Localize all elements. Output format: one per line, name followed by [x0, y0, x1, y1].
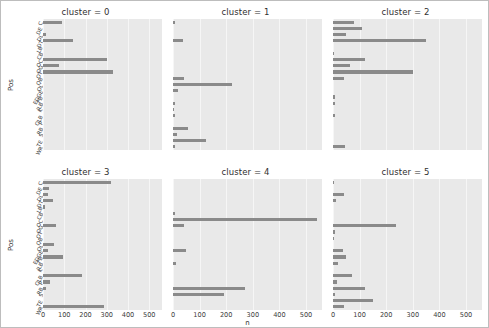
gridline-vertical: [173, 179, 174, 310]
bar: [173, 83, 232, 86]
figure-canvas: cluster = 0PosCDEDLDTLBCBOCOGOTQBOLEDGEF…: [0, 0, 489, 328]
bar: [333, 305, 344, 308]
gridline-vertical: [466, 19, 467, 150]
bar: [43, 33, 46, 36]
bar: [333, 274, 352, 277]
bar: [333, 193, 344, 196]
facet-body: [169, 179, 322, 310]
gridline-vertical: [253, 179, 254, 310]
bar: [333, 27, 362, 30]
bar: [43, 287, 46, 290]
x-tick-label: 500: [143, 311, 156, 319]
gridline-vertical: [466, 179, 467, 310]
bar: [43, 39, 73, 42]
bar: [173, 114, 175, 117]
bar: [43, 224, 56, 227]
bar: [333, 237, 334, 240]
plot-area: [173, 19, 322, 150]
facet-body: [329, 19, 482, 150]
bar: [173, 262, 176, 265]
plot-area: [173, 179, 322, 310]
facet-body: [329, 179, 482, 310]
bar: [333, 199, 336, 202]
gridline-vertical: [439, 19, 440, 150]
bar: [43, 181, 111, 184]
gridline-vertical: [128, 179, 129, 310]
x-tick-label: 500: [460, 311, 473, 319]
gridline-vertical: [360, 179, 361, 310]
bar: [333, 21, 354, 24]
facet-title: cluster = 0: [9, 7, 162, 19]
x-tick-label: 400: [122, 311, 135, 319]
x-tick-label: 400: [433, 311, 446, 319]
facet-grid: cluster = 0PosCDEDLDTLBCBOCOGOTQBOLEDGEF…: [9, 7, 482, 323]
x-tick-label: 400: [273, 311, 286, 319]
bar: [173, 77, 184, 80]
bar: [333, 230, 335, 233]
facet-title: cluster = 2: [329, 7, 482, 19]
bar: [43, 205, 45, 208]
facet-cluster-5: cluster = 50100200300400500n: [329, 167, 482, 323]
x-axis: 0100200300400500n: [333, 310, 482, 323]
bar: [333, 145, 345, 148]
gridline-vertical: [107, 19, 108, 150]
x-axis-title: n: [245, 319, 249, 327]
facet-cluster-3: cluster = 3PosCDEDLDTLBCBOCOGOTQBOLEDGEF…: [9, 167, 162, 323]
plot-area: [43, 19, 162, 150]
gridline-vertical: [86, 19, 87, 150]
gridline-vertical: [128, 19, 129, 150]
facet-body: [169, 19, 322, 150]
bar: [333, 255, 346, 258]
bar: [43, 274, 82, 277]
bar: [333, 39, 426, 42]
x-tick-label: 500: [300, 311, 313, 319]
x-tick-label: 100: [353, 311, 366, 319]
gridline-vertical: [149, 179, 150, 310]
x-tick-label: 0: [41, 311, 45, 319]
y-tick-labels: PosCDEDLDTLBCBOCOGOTQBOLEDGEFBILBKOLBPRB…: [9, 179, 43, 310]
gridline-vertical: [279, 179, 280, 310]
plot-area: [43, 179, 162, 310]
facet-cluster-2: cluster = 20100200300400500n: [329, 7, 482, 163]
bar: [173, 108, 174, 111]
gridline-vertical: [306, 19, 307, 150]
bar: [333, 293, 335, 296]
bar: [43, 187, 49, 190]
bar: [333, 249, 343, 252]
bar: [173, 212, 175, 215]
facet-cluster-1: cluster = 10100200300400500n: [169, 7, 322, 163]
bar: [333, 299, 373, 302]
bar: [173, 145, 175, 148]
plot-area: [333, 179, 482, 310]
facet-cluster-4: cluster = 40100200300400500n: [169, 167, 322, 323]
x-tick-label: 0: [331, 311, 335, 319]
x-tick-label: 300: [100, 311, 113, 319]
gridline-vertical: [386, 179, 387, 310]
bar: [173, 133, 177, 136]
bar: [333, 224, 396, 227]
gridline-vertical: [439, 179, 440, 310]
facet-title: cluster = 5: [329, 167, 482, 179]
bar: [333, 64, 350, 67]
x-tick-label: 100: [58, 311, 71, 319]
bar: [333, 262, 338, 265]
bar: [333, 181, 334, 184]
bar: [43, 58, 107, 61]
bar: [173, 293, 224, 296]
bar: [333, 70, 413, 73]
gridline-vertical: [149, 19, 150, 150]
y-tick-labels: PosCDEDLDTLBCBOCOGOTQBOLEDGEFBILBKOLBPRB…: [9, 19, 43, 150]
bar: [43, 64, 59, 67]
facet-title: cluster = 4: [169, 167, 322, 179]
gridline-vertical: [306, 179, 307, 310]
y-axis-title: Pos: [7, 239, 15, 251]
x-tick-label: 300: [407, 311, 420, 319]
gridline-vertical: [64, 179, 65, 310]
gridline-vertical: [107, 179, 108, 310]
gridline-vertical: [226, 179, 227, 310]
bar: [43, 21, 62, 24]
facet-title: cluster = 3: [9, 167, 162, 179]
facet-title: cluster = 1: [169, 7, 322, 19]
gridline-vertical: [279, 19, 280, 150]
bar: [333, 58, 365, 61]
